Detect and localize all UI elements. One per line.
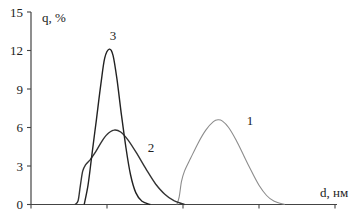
axes [31,12,337,205]
curve-label-1: 1 [247,113,254,128]
y-ticks: 03691215 [10,5,31,213]
curve-3 [84,49,150,204]
curve-label-3: 3 [110,28,117,43]
curves [75,49,285,204]
y-tick-label: 9 [17,82,24,97]
curve-1 [177,120,285,205]
y-tick-label: 12 [10,43,23,58]
curve-labels: 123 [110,28,253,155]
x-axis-label: d, нм [320,185,348,200]
y-tick-label: 15 [10,5,23,20]
curve-2 [75,130,184,205]
y-tick-label: 0 [17,197,24,212]
y-tick-label: 3 [17,159,24,174]
curve-label-2: 2 [148,140,155,155]
y-axis-label: q, % [42,10,66,25]
chart: 03691215 123 q, % d, нм [0,0,353,214]
x-ticks [31,205,335,209]
y-tick-label: 6 [17,120,24,135]
